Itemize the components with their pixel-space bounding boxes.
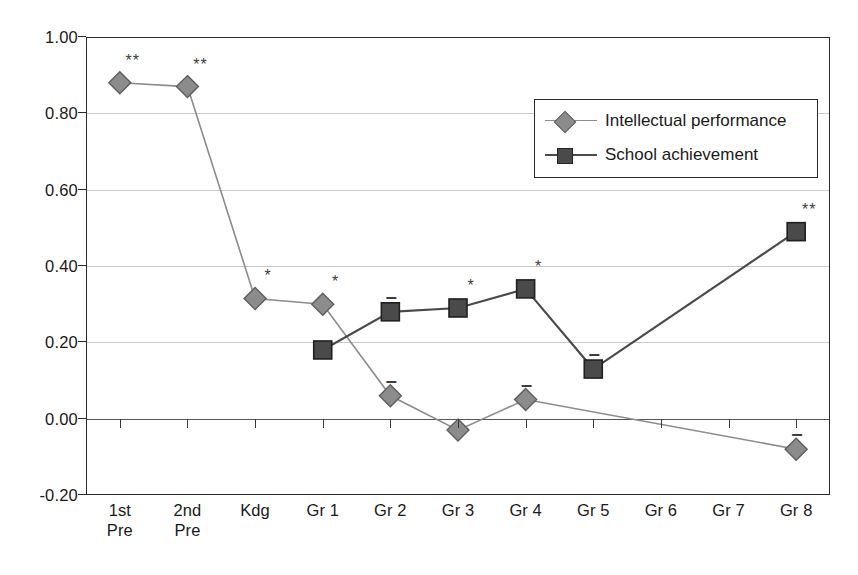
legend-item-school-achievement[interactable]: School achievement — [543, 142, 758, 168]
x-axis-tick-mark — [323, 419, 324, 428]
chart-container: 1.000.800.600.400.200.00-0.20 1st Pre2nd… — [0, 0, 858, 575]
x-axis-tick-label: Gr 8 — [780, 500, 813, 520]
diamond-marker-icon — [543, 110, 599, 132]
x-axis-tick-label: Kdg — [240, 500, 270, 520]
significance-annotation: – — [386, 286, 397, 306]
y-axis-tick-mark — [78, 189, 86, 190]
y-axis-tick-label: 0.20 — [10, 333, 78, 352]
y-axis-tick-mark — [78, 494, 86, 495]
x-axis-tick-label: Gr 5 — [577, 500, 610, 520]
x-axis-tick-label: Gr 1 — [306, 500, 339, 520]
y-axis-tick-mark — [78, 112, 86, 113]
x-axis-tick-label: Gr 7 — [712, 500, 745, 520]
significance-annotation: – — [792, 423, 803, 443]
y-axis-tick-mark — [78, 418, 86, 419]
x-axis-tick-label: Gr 3 — [442, 500, 475, 520]
y-axis-tick-label: 1.00 — [10, 28, 78, 47]
legend-label-school-achievement: School achievement — [605, 145, 758, 165]
gridline — [87, 190, 829, 191]
y-axis-tick-mark — [78, 36, 86, 37]
y-axis: 1.000.800.600.400.200.00-0.20 — [4, 37, 78, 495]
gridline — [87, 342, 829, 343]
gridline — [87, 266, 829, 267]
x-axis-tick-mark — [661, 419, 662, 428]
x-axis-tick-label: Gr 2 — [374, 500, 407, 520]
chart-legend: Intellectual performance School achievem… — [534, 99, 818, 178]
x-axis-tick-mark — [526, 419, 527, 428]
significance-annotation: * — [467, 278, 474, 294]
x-axis-tick-label: Gr 6 — [645, 500, 678, 520]
y-axis-tick-label: 0.00 — [10, 409, 78, 428]
significance-annotation: * — [264, 268, 271, 284]
y-axis-tick-label: 0.40 — [10, 257, 78, 276]
y-axis-tick-label: 0.80 — [10, 104, 78, 123]
significance-annotation: ** — [193, 57, 207, 73]
x-axis-tick-mark — [390, 419, 391, 428]
significance-annotation: ** — [126, 53, 140, 69]
legend-item-intellectual-performance[interactable]: Intellectual performance — [543, 108, 786, 134]
square-marker-icon — [543, 144, 599, 166]
significance-annotation: * — [535, 259, 542, 275]
significance-annotation: – — [521, 374, 532, 394]
x-axis-tick-mark — [187, 419, 188, 428]
y-axis-tick-label: -0.20 — [10, 486, 78, 505]
x-axis-tick-mark — [593, 419, 594, 428]
x-axis-tick-label: Gr 4 — [509, 500, 542, 520]
y-axis-tick-mark — [78, 265, 86, 266]
y-axis-tick-label: 0.60 — [10, 180, 78, 199]
x-axis-tick-mark — [120, 419, 121, 428]
x-axis-tick-label: 1st Pre — [107, 500, 133, 540]
significance-annotation: * — [332, 274, 339, 290]
significance-annotation: – — [386, 370, 397, 390]
legend-label-intellectual-performance: Intellectual performance — [605, 111, 786, 131]
x-axis-tick-label: 2nd Pre — [174, 500, 202, 540]
x-axis-tick-mark — [255, 419, 256, 428]
x-axis-tick-mark — [729, 419, 730, 428]
y-axis-tick-mark — [78, 341, 86, 342]
significance-annotation: ** — [802, 202, 816, 218]
significance-annotation: – — [589, 343, 600, 363]
x-axis-tick-mark — [458, 419, 459, 428]
